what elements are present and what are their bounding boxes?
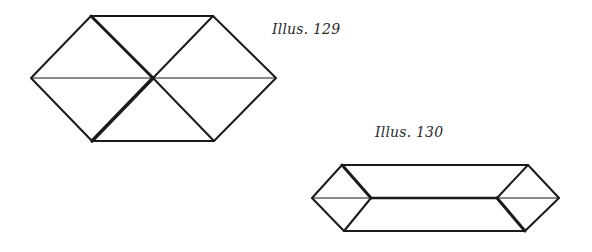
illustration-129: [31, 16, 276, 141]
right-diamond-upper-edge: [497, 165, 528, 198]
diagonal-center-to-bottom-left: [92, 78, 153, 141]
illustration-129-caption: Illus. 129: [272, 21, 340, 37]
diagonal-top-left-to-center: [91, 16, 153, 78]
left-diamond-upper-edge: [342, 165, 371, 198]
diagram-canvas: [0, 0, 592, 252]
diagonal-top-right-to-center: [153, 16, 213, 78]
illustration-130-caption: Illus. 130: [375, 124, 443, 140]
right-diamond-lower-edge: [497, 198, 525, 231]
illustration-130: [312, 165, 559, 231]
diagonal-center-to-bottom-right: [153, 78, 214, 141]
left-diamond-lower-edge: [344, 198, 371, 231]
